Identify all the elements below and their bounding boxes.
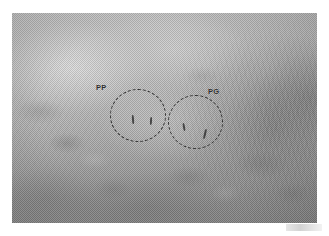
- figure-root: PPPG: [0, 0, 329, 236]
- region-pg-label: PG: [208, 87, 219, 96]
- region-pg-circle: [168, 95, 223, 149]
- region-pp-circle: [110, 89, 166, 142]
- annotation-overlay: PPPG: [12, 13, 317, 223]
- scan-smudge-artifact: [286, 224, 322, 231]
- micrograph-photo: PPPG: [12, 13, 317, 223]
- region-pp-label: PP: [96, 83, 106, 92]
